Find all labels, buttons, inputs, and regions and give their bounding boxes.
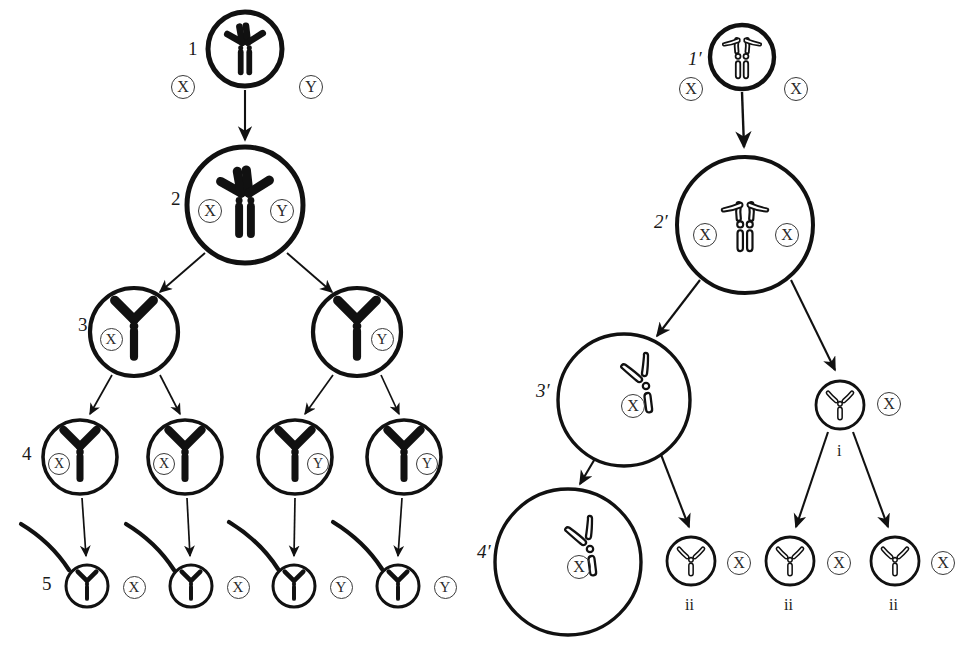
cell-i[interactable] — [816, 381, 864, 429]
arrow-2p-to-3p — [657, 280, 700, 336]
cell-ii-1[interactable] — [667, 537, 715, 585]
arrow-3a-to-4a — [90, 375, 112, 414]
sex-chromosome-chip-y: Y — [307, 453, 329, 475]
cell-1[interactable] — [208, 12, 282, 86]
stage-label-1-prime: 1′ — [688, 49, 702, 68]
sex-chromosome-chip-x: X — [784, 77, 808, 101]
sex-chromosome-chip-y: Y — [330, 576, 353, 599]
sex-chromosome-chip-x: X — [48, 453, 70, 475]
cell-5b[interactable] — [170, 565, 212, 607]
sex-chromosome-chip-x: X — [123, 576, 146, 599]
arrow-3b-to-4d — [381, 375, 399, 414]
flagellum — [126, 524, 174, 570]
arrow-3a-to-4b — [160, 375, 180, 414]
sex-chromosome-chip-y: Y — [434, 576, 457, 599]
sex-chromosome-chip-y: Y — [371, 328, 394, 351]
arrow-4b-to-5b — [187, 498, 190, 556]
stage-label-4-prime: 4′ — [477, 542, 491, 561]
arrow-2-to-3a — [160, 253, 205, 292]
cell-ii-3[interactable] — [871, 537, 919, 585]
roman-label-ii: ii — [784, 597, 793, 613]
cell-5c[interactable] — [273, 565, 315, 607]
stage-label-2: 2 — [171, 189, 181, 208]
flagellum — [333, 522, 382, 569]
arrow-1p-to-2p — [742, 92, 744, 147]
flagellum — [229, 522, 278, 569]
arrow-2p-to-i — [791, 280, 835, 370]
stage-label-3-prime: 3′ — [536, 381, 550, 400]
sex-chromosome-chip-x: X — [153, 453, 175, 475]
sex-chromosome-chip-x: X — [567, 555, 591, 579]
cell-5d[interactable] — [377, 565, 419, 607]
figure-canvas: 123451′2′3′4′ iiiiiii XYXYXYXXYYXXYYXXXX… — [0, 0, 961, 650]
sex-chromosome-chip-x: X — [693, 223, 717, 247]
sex-chromosome-chip-x: X — [679, 77, 703, 101]
sex-chromosome-chip-y: Y — [270, 199, 294, 223]
cell-5a[interactable] — [66, 565, 108, 607]
roman-label-i: i — [837, 443, 841, 459]
stage-label-4: 4 — [22, 444, 32, 463]
arrow-i-to-ii2 — [796, 432, 828, 527]
sex-chromosome-chip-x: X — [198, 199, 222, 223]
arrow-i-to-ii3 — [853, 432, 888, 527]
arrow-3p-to-ii1 — [660, 452, 689, 527]
stage-label-2-prime: 2′ — [654, 212, 668, 231]
stage-label-5: 5 — [42, 574, 52, 593]
sex-chromosome-chip-x: X — [775, 223, 799, 247]
arrow-4a-to-5a — [82, 498, 86, 556]
flagellum — [21, 524, 69, 570]
sex-chromosome-chip-y: Y — [416, 453, 438, 475]
sex-chromosome-chip-x: X — [171, 75, 195, 99]
cell-1-prime[interactable] — [710, 25, 774, 89]
sex-chromosome-chip-x: X — [827, 551, 851, 575]
left-cells — [43, 12, 441, 607]
roman-label-ii: ii — [889, 597, 898, 613]
stage-label-1: 1 — [188, 39, 198, 58]
sex-chromosome-chip-x: X — [227, 576, 250, 599]
sex-chromosome-chip-y: Y — [299, 75, 323, 99]
left-panel — [21, 12, 441, 607]
sex-chromosome-chip-x: X — [877, 392, 901, 416]
stage-label-3: 3 — [78, 315, 88, 334]
left-flagella — [21, 522, 382, 570]
arrow-3b-to-4c — [305, 375, 333, 414]
sex-chromosome-chip-x: X — [100, 328, 123, 351]
sex-chromosome-chip-x: X — [931, 551, 955, 575]
right-cells — [495, 25, 919, 635]
arrow-4d-to-5d — [398, 498, 402, 556]
arrow-3p-to-4p — [580, 457, 596, 484]
right-panel — [495, 25, 919, 635]
arrow-2-to-3b — [287, 253, 332, 292]
sex-chromosome-chip-x: X — [621, 394, 645, 418]
roman-label-ii: ii — [685, 597, 694, 613]
arrow-4c-to-5c — [294, 498, 295, 556]
cell-ii-2[interactable] — [766, 537, 814, 585]
sex-chromosome-chip-x: X — [727, 551, 751, 575]
